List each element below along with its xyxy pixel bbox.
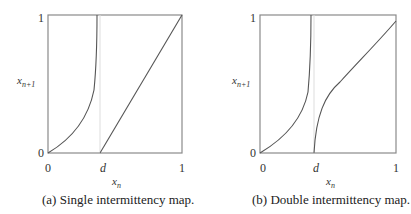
y-tick-0-a: 0: [38, 146, 44, 160]
y-axis-label-a: xn+1: [16, 74, 35, 89]
panel-b: 1 0 0 d 1 xn+1 xn: [231, 11, 399, 190]
x-axis-label-b: xn: [325, 175, 335, 190]
y-tick-1-b: 1: [250, 11, 256, 25]
y-axis-label-b: xn+1: [231, 74, 250, 89]
y-tick-1-a: 1: [38, 11, 44, 25]
x-axis-label-a: xn: [111, 175, 121, 190]
plot-frame-b: [260, 15, 396, 153]
x-tick-d-b: d: [313, 161, 320, 175]
left-branch-curve-b: [260, 15, 311, 153]
x-tick-1-a: 1: [179, 161, 185, 175]
caption-b: (b) Double intermittency map.: [252, 192, 410, 208]
panel-a: 1 0 0 d 1 xn+1 xn: [16, 11, 185, 190]
left-branch-curve-a: [48, 15, 97, 153]
x-tick-1-b: 1: [393, 161, 399, 175]
plot-frame-a: [48, 15, 182, 153]
right-branch-line-a: [100, 15, 182, 153]
x-tick-0-a: 0: [45, 161, 51, 175]
x-tick-d-a: d: [100, 161, 107, 175]
caption-a: (a) Single intermittency map.: [42, 192, 194, 208]
x-tick-0-b: 0: [260, 161, 266, 175]
y-tick-0-b: 0: [250, 146, 256, 160]
figure: 1 0 0 d 1 xn+1 xn 1 0 0 d 1 xn+1 xn: [0, 0, 411, 214]
right-branch-curve-b: [314, 21, 396, 153]
